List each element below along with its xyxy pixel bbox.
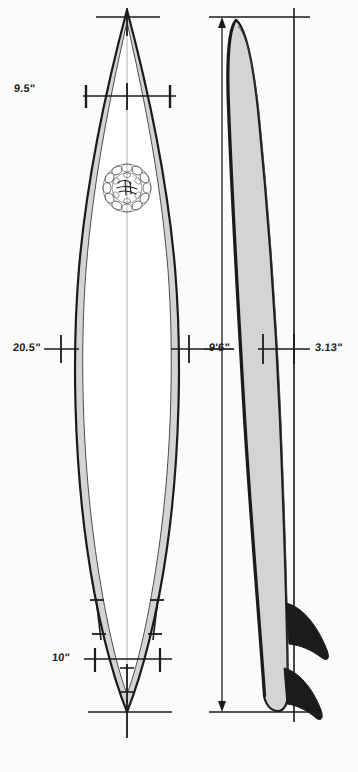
nose-width-dimension-label: 9.5": [14, 82, 36, 94]
outline-view: [44, 8, 206, 738]
blueprint-sheet: 9.5" 20.5" 10" 9'6" 3.13": [0, 0, 358, 772]
rear-fin: [286, 603, 328, 660]
thickness-dimension-label: 3.13": [315, 341, 343, 353]
length-dimension-graphic: [218, 17, 226, 712]
tail-width-dimension-label: 10": [52, 651, 71, 663]
length-dimension-label: 9'6": [209, 341, 231, 353]
max-width-dimension-label: 20.5": [13, 341, 41, 353]
profile-view: [205, 8, 328, 722]
